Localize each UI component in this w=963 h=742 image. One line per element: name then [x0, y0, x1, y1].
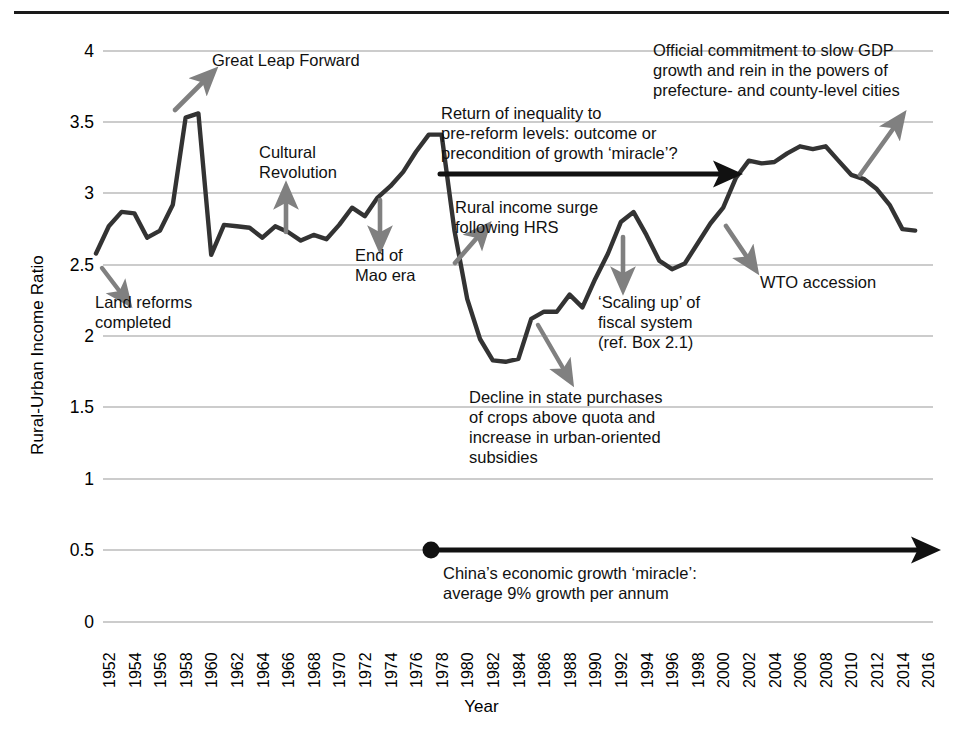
x-tick-label-2014: 2014	[896, 652, 912, 688]
annotation-rural-income-surge: Rural income surge following HRS	[455, 197, 598, 237]
y-tick-label-3.5: 3.5	[48, 114, 94, 132]
x-tick-label-1994: 1994	[640, 652, 656, 688]
arrow-decline-state-purchases	[538, 325, 567, 375]
x-tick-label-1966: 1966	[281, 652, 297, 688]
y-tick-label-0: 0	[48, 614, 94, 632]
annotation-return-of-inequality: Return of inequality to pre-reform level…	[441, 103, 678, 163]
x-tick-label-1978: 1978	[435, 652, 451, 688]
y-tick-label-1.5: 1.5	[48, 399, 94, 417]
y-tick-label-0.5: 0.5	[48, 542, 94, 560]
x-tick-label-2000: 2000	[716, 652, 732, 688]
x-tick-label-1988: 1988	[563, 652, 579, 688]
annotation-great-leap-forward: Great Leap Forward	[212, 50, 360, 70]
x-tick-label-1982: 1982	[486, 652, 502, 688]
arrow-great-leap-forward	[175, 77, 208, 110]
x-axis-title: Year	[0, 697, 963, 717]
x-tick-label-1968: 1968	[307, 652, 323, 688]
annotation-land-reforms: Land reforms completed	[95, 292, 192, 332]
x-tick-label-1996: 1996	[665, 652, 681, 688]
y-tick-label-3: 3	[48, 185, 94, 203]
annotation-end-of-mao-era: End of Mao era	[355, 245, 416, 285]
annotation-cultural-revolution: Cultural Revolution	[259, 142, 337, 182]
x-tick-label-1964: 1964	[256, 652, 272, 688]
annotation-growth-miracle: China’s economic growth ‘miracle’: avera…	[443, 563, 697, 603]
x-tick-label-1952: 1952	[102, 652, 118, 688]
y-tick-label-4: 4	[48, 43, 94, 61]
x-tick-label-2006: 2006	[793, 652, 809, 688]
x-tick-label-2004: 2004	[768, 652, 784, 688]
annotation-scaling-up-fiscal-system: ‘Scaling up’ of fiscal system (ref. Box …	[598, 292, 700, 352]
x-tick-label-2002: 2002	[742, 652, 758, 688]
x-tick-label-1986: 1986	[537, 652, 553, 688]
figure-chart-rural-urban-income-ratio: 4 3.5 3 2.5 2 1.5 1 0.5 0 1952 1954 1956…	[0, 0, 963, 742]
x-tick-label-1972: 1972	[358, 652, 374, 688]
x-tick-label-2016: 2016	[921, 652, 937, 688]
x-tick-label-1984: 1984	[512, 652, 528, 688]
x-tick-label-1974: 1974	[384, 652, 400, 688]
x-tick-label-1998: 1998	[691, 652, 707, 688]
annotation-official-commitment: Official commitment to slow GDP growth a…	[653, 40, 900, 100]
y-axis-title: Rural-Urban Income Ratio	[28, 205, 48, 505]
x-tick-label-2010: 2010	[844, 652, 860, 688]
x-tick-label-1960: 1960	[204, 652, 220, 688]
x-tick-label-1958: 1958	[179, 652, 195, 688]
x-tick-label-2012: 2012	[870, 652, 886, 688]
y-tick-label-2: 2	[48, 328, 94, 346]
x-tick-label-1976: 1976	[409, 652, 425, 688]
x-tick-label-2008: 2008	[819, 652, 835, 688]
growth-miracle-start-dot	[423, 542, 440, 559]
y-tick-label-1: 1	[48, 471, 94, 489]
x-tick-label-1962: 1962	[230, 652, 246, 688]
y-tick-label-2.5: 2.5	[48, 257, 94, 275]
arrow-official-commitment	[860, 122, 898, 175]
annotation-decline-state-purchases: Decline in state purchases of crops abov…	[469, 387, 663, 468]
annotation-wto-accession: WTO accession	[760, 272, 876, 292]
x-tick-label-1992: 1992	[614, 652, 630, 688]
arrow-wto-accession	[726, 226, 751, 263]
x-tick-label-1954: 1954	[128, 652, 144, 688]
x-tick-label-1990: 1990	[588, 652, 604, 688]
x-tick-label-1980: 1980	[460, 652, 476, 688]
x-tick-label-1956: 1956	[153, 652, 169, 688]
x-tick-label-1970: 1970	[332, 652, 348, 688]
